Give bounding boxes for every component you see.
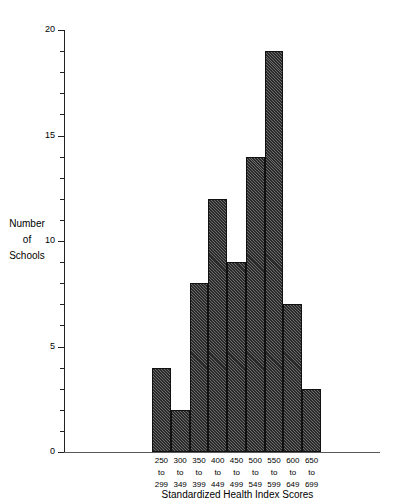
x-axis-tick-label-line: 300 <box>171 455 190 467</box>
x-axis-tick-labels: 250to299300to349350to399400to449450to499… <box>152 455 321 493</box>
y-axis-major-tick: 20 <box>0 30 65 31</box>
y-axis-tick-mark <box>58 241 65 242</box>
x-axis-tick-label-line: 500 <box>246 455 265 467</box>
x-axis-tick-label-line: 400 <box>208 455 227 467</box>
x-axis-tick-label-line: to <box>227 467 246 479</box>
y-axis-major-tick: 0 <box>0 452 65 453</box>
y-axis-minor-tick <box>60 220 65 221</box>
y-axis-minor-tick <box>60 368 65 369</box>
y-axis-minor-tick <box>60 431 65 432</box>
x-axis-title: Standardized Health Index Scores <box>130 489 345 500</box>
x-axis-tick-label: 350to399 <box>190 455 209 491</box>
histogram-bar <box>190 283 209 452</box>
x-axis-tick-label-line: to <box>152 467 171 479</box>
x-axis-tick-label: 250to299 <box>152 455 171 491</box>
x-axis-tick-label: 400to449 <box>208 455 227 491</box>
histogram-bar <box>283 304 302 452</box>
x-axis-tick-label-line: to <box>190 467 209 479</box>
y-axis-minor-tick <box>60 72 65 73</box>
y-axis-minor-tick <box>60 157 65 158</box>
y-axis-tick-mark <box>58 347 65 348</box>
histogram-bar <box>246 157 265 452</box>
y-axis-major-tick: 5 <box>0 347 65 348</box>
y-axis-major-tick: 15 <box>0 136 65 137</box>
x-axis-tick-label-line: to <box>208 467 227 479</box>
x-axis-tick-label: 500to549 <box>246 455 265 491</box>
histogram-bar <box>171 410 190 452</box>
y-axis-minor-tick <box>60 283 65 284</box>
y-axis-title-line: Schools <box>4 248 50 264</box>
x-axis-tick-label-line: to <box>171 467 190 479</box>
x-axis-tick-label: 650to699 <box>302 455 321 491</box>
y-axis-minor-tick <box>60 178 65 179</box>
x-axis-tick-label: 300to349 <box>171 455 190 491</box>
x-axis-tick-label-line: to <box>283 467 302 479</box>
x-axis-line <box>64 452 380 453</box>
y-axis-tick-label: 20 <box>19 25 55 34</box>
plot-area <box>152 30 321 452</box>
histogram-bar <box>208 199 227 452</box>
histogram-bar <box>152 368 171 452</box>
x-axis-tick-label: 600to649 <box>283 455 302 491</box>
x-axis-tick-label-line: 550 <box>265 455 284 467</box>
y-axis-minor-tick <box>60 93 65 94</box>
y-axis-minor-tick <box>60 262 65 263</box>
x-axis-tick-label-line: to <box>265 467 284 479</box>
x-axis-tick-label-line: to <box>246 467 265 479</box>
x-axis-tick-label-line: 250 <box>152 455 171 467</box>
y-axis-tick-mark <box>58 30 65 31</box>
y-axis-minor-tick <box>60 114 65 115</box>
histogram-figure: 05101520 NumberofSchools 250to299300to34… <box>0 0 400 501</box>
y-axis-title-line: of <box>4 232 50 248</box>
x-axis-tick-label-line: 600 <box>283 455 302 467</box>
x-axis-tick-label-line: 450 <box>227 455 246 467</box>
y-axis-minor-tick <box>60 304 65 305</box>
x-axis-tick-label-line: 350 <box>190 455 209 467</box>
y-axis-tick-mark <box>58 136 65 137</box>
x-axis-tick-label: 450to499 <box>227 455 246 491</box>
y-axis-minor-tick <box>60 199 65 200</box>
y-axis-tick-label: 5 <box>19 342 55 351</box>
y-axis-tick-label: 15 <box>19 131 55 140</box>
y-axis-minor-tick <box>60 325 65 326</box>
y-axis-minor-tick <box>60 389 65 390</box>
histogram-bar <box>265 51 284 452</box>
x-axis-tick-label-line: 650 <box>302 455 321 467</box>
y-axis-minor-tick <box>60 51 65 52</box>
y-axis-title-line: Number <box>4 216 50 232</box>
x-axis-tick-label-line: to <box>302 467 321 479</box>
y-axis-tick-label: 0 <box>19 447 55 456</box>
histogram-bar <box>302 389 321 452</box>
y-axis-title: NumberofSchools <box>4 216 50 264</box>
y-axis-minor-tick <box>60 410 65 411</box>
x-axis-tick-label: 550to599 <box>265 455 284 491</box>
histogram-bar <box>227 262 246 452</box>
